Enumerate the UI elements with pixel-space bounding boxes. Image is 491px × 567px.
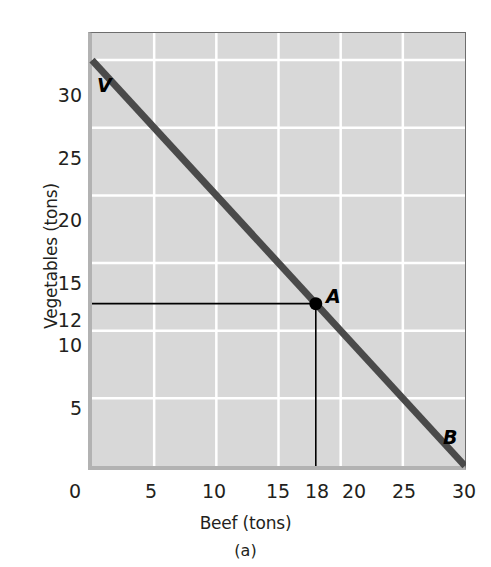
- plot-area: V A B: [88, 32, 466, 470]
- figure-panel: Vegetables (tons) 30 25 20 15 12 10 5 0 …: [0, 0, 491, 567]
- x-axis-tick-labels: 0 5 10 15 18 20 25 30: [0, 481, 491, 511]
- x-tick-label: 0: [53, 481, 97, 501]
- panel-label: (a): [0, 541, 491, 560]
- x-tick-label: 10: [192, 481, 236, 501]
- data-markers: [309, 297, 322, 310]
- annotation-label-a: A: [326, 287, 341, 306]
- annotation-label-b: B: [443, 428, 457, 447]
- y-tick-label: 30: [42, 86, 82, 105]
- x-tick-label: 5: [129, 481, 173, 501]
- y-tick-label: 10: [42, 336, 82, 355]
- plot-canvas: [88, 32, 466, 470]
- y-tick-label: 15: [42, 274, 82, 293]
- y-tick-label: 12: [42, 311, 82, 330]
- x-tick-label: 20: [332, 481, 376, 501]
- x-tick-label: 15: [256, 481, 300, 501]
- x-axis-title: Beef (tons): [0, 513, 491, 533]
- y-tick-label: 20: [42, 211, 82, 230]
- y-tick-label: 5: [42, 399, 82, 418]
- guide-lines: [92, 304, 316, 466]
- y-tick-label: 25: [42, 149, 82, 168]
- gridlines-vertical: [154, 33, 403, 466]
- x-tick-label: 30: [442, 481, 486, 501]
- annotation-label-v: V: [97, 76, 112, 95]
- x-tick-label: 25: [382, 481, 426, 501]
